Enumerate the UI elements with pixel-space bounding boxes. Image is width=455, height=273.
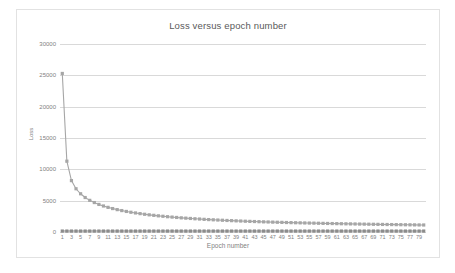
data-point-marker (116, 208, 119, 211)
x-axis-tick-label: 51 (288, 234, 294, 240)
data-point-marker (74, 229, 77, 232)
x-axis-tick-label: 77 (407, 234, 413, 240)
series-line (62, 73, 423, 225)
data-point-marker (257, 229, 260, 232)
x-axis-tick-label: 47 (270, 234, 276, 240)
data-point-marker (299, 229, 302, 232)
data-point-marker (390, 229, 393, 232)
data-point-marker (280, 229, 283, 232)
x-axis-tick-label: 41 (242, 234, 248, 240)
data-point-marker (413, 223, 416, 226)
data-point-marker (152, 229, 155, 232)
data-point-marker (262, 229, 265, 232)
data-point-marker (198, 217, 201, 220)
x-axis-tick-label: 37 (224, 234, 230, 240)
x-axis-tick-label: 19 (142, 234, 148, 240)
data-point-marker (175, 216, 178, 219)
x-axis-tick-label: 49 (279, 234, 285, 240)
data-point-marker (413, 229, 416, 232)
data-point-marker (125, 229, 128, 232)
data-point-marker (138, 212, 141, 215)
data-point-marker (84, 229, 87, 232)
data-point-marker (321, 229, 324, 232)
data-point-marker (116, 229, 119, 232)
data-point-marker (203, 229, 206, 232)
data-point-marker (262, 220, 265, 223)
gridline (60, 232, 426, 233)
data-point-marker (184, 229, 187, 232)
data-point-marker (212, 229, 215, 232)
x-axis-tick-label: 63 (343, 234, 349, 240)
x-axis-tick-label: 31 (196, 234, 202, 240)
data-point-marker (321, 222, 324, 225)
y-axis-tick-label: 0 (53, 229, 56, 235)
data-point-marker (267, 229, 270, 232)
data-point-marker (353, 229, 356, 232)
x-axis-title: Epoch number (17, 242, 439, 249)
data-point-marker (381, 223, 384, 226)
data-point-marker (340, 222, 343, 225)
data-point-marker (184, 217, 187, 220)
data-point-marker (106, 229, 109, 232)
x-axis-tick-label: 79 (416, 234, 422, 240)
x-axis-tick-label: 55 (306, 234, 312, 240)
data-point-marker (239, 219, 242, 222)
data-point-marker (331, 222, 334, 225)
data-point-marker (97, 229, 100, 232)
data-point-marker (134, 229, 137, 232)
x-axis-tick-label: 1 (61, 234, 64, 240)
data-point-marker (207, 218, 210, 221)
y-axis-tick-label: 10000 (39, 166, 56, 172)
data-point-marker (358, 229, 361, 232)
x-axis-tick-label: 29 (187, 234, 193, 240)
data-point-marker (386, 223, 389, 226)
data-point-marker (294, 221, 297, 224)
data-point-marker (207, 229, 210, 232)
x-axis-tick-label: 69 (370, 234, 376, 240)
x-axis-tick-label: 45 (261, 234, 267, 240)
x-axis-tick-label: 9 (97, 234, 100, 240)
y-axis-tick-label: 25000 (39, 72, 56, 78)
x-axis-tick-label: 3 (70, 234, 73, 240)
data-point-marker (230, 219, 233, 222)
data-point-marker (285, 229, 288, 232)
data-point-marker (189, 229, 192, 232)
data-point-marker (303, 221, 306, 224)
data-point-marker (152, 214, 155, 217)
x-axis-tick-label: 65 (352, 234, 358, 240)
x-axis-tick-label: 57 (315, 234, 321, 240)
data-point-marker (253, 229, 256, 232)
data-point-marker (372, 229, 375, 232)
data-point-marker (148, 213, 151, 216)
data-point-marker (363, 223, 366, 226)
x-axis-tick-label: 43 (251, 234, 257, 240)
data-point-marker (111, 229, 114, 232)
data-point-marker (326, 222, 329, 225)
data-point-marker (395, 229, 398, 232)
data-point-marker (422, 229, 425, 232)
data-point-marker (294, 229, 297, 232)
data-point-marker (390, 223, 393, 226)
x-axis-tick-label: 53 (297, 234, 303, 240)
data-point-marker (267, 220, 270, 223)
y-axis-title: Loss (28, 127, 34, 140)
data-point-marker (193, 217, 196, 220)
data-point-marker (170, 229, 173, 232)
data-point-marker (230, 229, 233, 232)
data-point-marker (399, 229, 402, 232)
data-point-marker (157, 214, 160, 217)
data-point-marker (363, 229, 366, 232)
data-point-marker (79, 229, 82, 232)
data-point-marker (239, 229, 242, 232)
data-point-marker (418, 229, 421, 232)
data-point-marker (93, 229, 96, 232)
data-point-marker (367, 229, 370, 232)
data-point-marker (312, 222, 315, 225)
y-axis-tick-label: 20000 (39, 104, 56, 110)
x-axis-tick-label: 67 (361, 234, 367, 240)
data-point-marker (248, 229, 251, 232)
data-point-marker (88, 229, 91, 232)
data-point-marker (193, 229, 196, 232)
data-point-marker (189, 217, 192, 220)
x-axis-tick-label: 15 (123, 234, 129, 240)
